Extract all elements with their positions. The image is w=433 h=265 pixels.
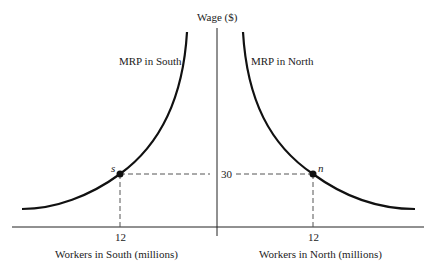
north-tick-12: 12 — [308, 232, 319, 243]
point-n-label: n — [318, 163, 324, 174]
wage-tick-30: 30 — [221, 169, 232, 180]
y-axis-label: Wage ($) — [197, 12, 237, 23]
point-s-label: s — [111, 163, 115, 174]
mrp-south-label: MRP in South — [119, 56, 182, 67]
south-tick-12: 12 — [115, 232, 126, 243]
point-n — [310, 171, 317, 178]
x-axis-label-north: Workers in North (millions) — [259, 249, 382, 260]
diagram-canvas — [0, 0, 433, 265]
point-s — [117, 171, 124, 178]
mrp-north-label: MRP in North — [251, 56, 314, 67]
x-axis-label-south: Workers in South (millions) — [55, 249, 178, 260]
